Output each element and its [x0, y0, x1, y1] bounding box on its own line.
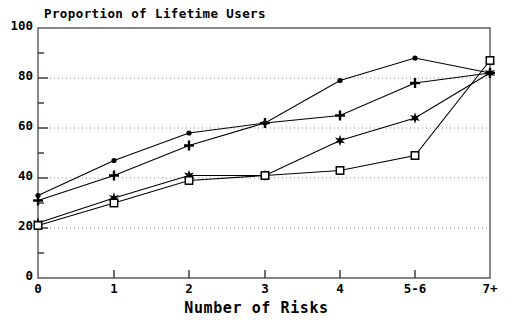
data-point-star [410, 112, 420, 124]
data-point-open-square [185, 177, 192, 184]
data-point-filled-circle [337, 78, 342, 83]
series-star-markers [33, 67, 495, 229]
series-line [38, 73, 490, 223]
data-point-star [335, 135, 345, 147]
data-point-filled-circle [111, 158, 116, 163]
data-point-open-square [486, 57, 493, 64]
data-point-open-square [110, 199, 117, 206]
series-plus [38, 73, 490, 201]
data-point-open-square [411, 152, 418, 159]
data-point-plus [33, 196, 43, 206]
data-point-plus [184, 141, 194, 151]
data-point-plus [410, 78, 420, 88]
plot-frame [38, 28, 490, 278]
data-point-open-square [261, 172, 268, 179]
data-series-layer [33, 55, 495, 229]
data-point-plus [335, 111, 345, 121]
chart-figure: Proportion of Lifetime Users Number of R… [0, 0, 513, 330]
x-axis-ticks [114, 270, 415, 278]
data-point-open-square [336, 167, 343, 174]
data-point-filled-circle [186, 130, 191, 135]
plot-area [0, 0, 513, 330]
data-point-filled-circle [412, 55, 417, 60]
data-point-plus [260, 118, 270, 128]
series-star [38, 73, 490, 223]
data-point-open-square [34, 222, 41, 229]
series-plus-markers [33, 68, 495, 206]
data-point-plus [109, 171, 119, 181]
series-line [38, 73, 490, 201]
